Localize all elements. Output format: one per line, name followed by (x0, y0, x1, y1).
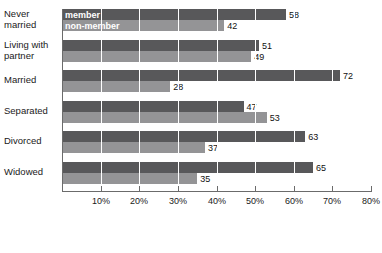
gridline (332, 9, 333, 184)
axis-tick (62, 186, 63, 191)
axis-tick (255, 186, 256, 191)
value-label-member: 65 (316, 163, 326, 174)
axis-tick-label: 80% (351, 196, 382, 206)
axis-tick-label: 40% (197, 196, 237, 206)
category-label: Never married (4, 8, 60, 31)
legend-label-non-member: non-member (65, 21, 120, 32)
bar-member (62, 131, 305, 142)
axis-tick (294, 186, 295, 191)
axis-tick (178, 186, 179, 191)
axis-tick-label: 30% (158, 196, 198, 206)
axis-tick-label: 20% (119, 196, 159, 206)
gridline (139, 9, 140, 184)
axis-tick (101, 186, 102, 191)
legend-label-member: member (65, 10, 100, 21)
axis-tick (139, 186, 140, 191)
axis-tick-label: 70% (312, 196, 352, 206)
value-label-member: 63 (308, 132, 318, 143)
horizontal-bar-chart: Never married5842Living with partner5149… (0, 0, 382, 253)
bar-member (62, 162, 313, 173)
gridline (101, 9, 102, 184)
axis-tick-label: 10% (81, 196, 121, 206)
category-label: Divorced (4, 135, 60, 147)
axis-tick (371, 186, 372, 191)
gridline (217, 9, 218, 184)
gridline (294, 9, 295, 184)
bar-member (62, 40, 259, 51)
value-label-member: 51 (262, 41, 272, 52)
x-axis-line (62, 191, 372, 192)
category-label: Widowed (4, 166, 60, 178)
bar-non-member (62, 81, 170, 92)
bar-non-member (62, 173, 197, 184)
axis-tick-label: 60% (274, 196, 314, 206)
gridline (178, 9, 179, 184)
gridline (255, 9, 256, 184)
axis-tick (217, 186, 218, 191)
bar-non-member (62, 142, 205, 153)
value-label-non-member: 42 (227, 21, 237, 32)
category-label: Separated (4, 105, 60, 117)
axis-tick-label: 50% (235, 196, 275, 206)
y-axis-line (62, 9, 63, 191)
bar-member (62, 70, 340, 81)
axis-tick (332, 186, 333, 191)
value-label-non-member: 53 (270, 113, 280, 124)
category-label: Married (4, 74, 60, 86)
category-label: Living with partner (4, 39, 60, 62)
bar-non-member (62, 112, 267, 123)
value-label-non-member: 35 (200, 174, 210, 185)
value-label-member: 72 (343, 71, 353, 82)
bar-non-member (62, 51, 251, 62)
